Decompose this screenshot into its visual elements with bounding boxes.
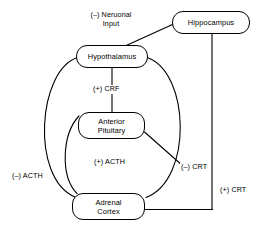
edge-label-acth-positive: (+) ACTH [93,158,126,167]
edge-label-crt-negative: (–) CRT [180,163,208,172]
edge-pituitary-to-crt [145,132,184,166]
edge-label-acth-negative-text: (–) ACTH [12,171,43,180]
node-adrenal-cortex-label-line2: Cortex [97,207,119,216]
node-anterior-pituitary-label-line1: Anterior [98,117,125,126]
node-hippocampus[interactable]: Hippocampus [172,11,250,34]
edge-label-neuronal-input-line2: Input [75,20,147,29]
edge-label-acth-negative: (–) ACTH [11,172,44,181]
node-anterior-pituitary-label-line2: Pituitary [98,126,126,135]
edge-label-crt-negative-text: (–) CRT [181,162,207,171]
edge-adrenal-to-hypothalamus-right [146,58,180,198]
node-hypothalamus[interactable]: Hypothalamus [76,45,148,68]
edge-label-crf: (+) CRF [92,85,120,94]
edge-label-crt-positive: (+) CRT [219,186,247,195]
node-adrenal-cortex[interactable]: Adrenal Cortex [72,193,145,220]
edge-label-crt-positive-text: (+) CRT [220,185,246,194]
node-anterior-pituitary[interactable]: Anterior Pituitary [78,112,145,139]
node-hypothalamus-label: Hypothalamus [88,52,136,61]
edge-label-neuronal-input: (–) Neruonal Input [74,11,148,28]
node-adrenal-cortex-label-line1: Adrenal [95,198,121,207]
edge-label-crf-text: (+) CRF [93,84,119,93]
edge-pituitary-to-adrenal [65,116,79,194]
diagram-canvas: Hippocampus Hypothalamus Anterior Pituit… [0,0,264,231]
node-hippocampus-label: Hippocampus [188,18,234,27]
edge-adrenal-to-hypothalamus-left [44,58,77,198]
edge-label-acth-positive-text: (+) ACTH [94,157,125,166]
